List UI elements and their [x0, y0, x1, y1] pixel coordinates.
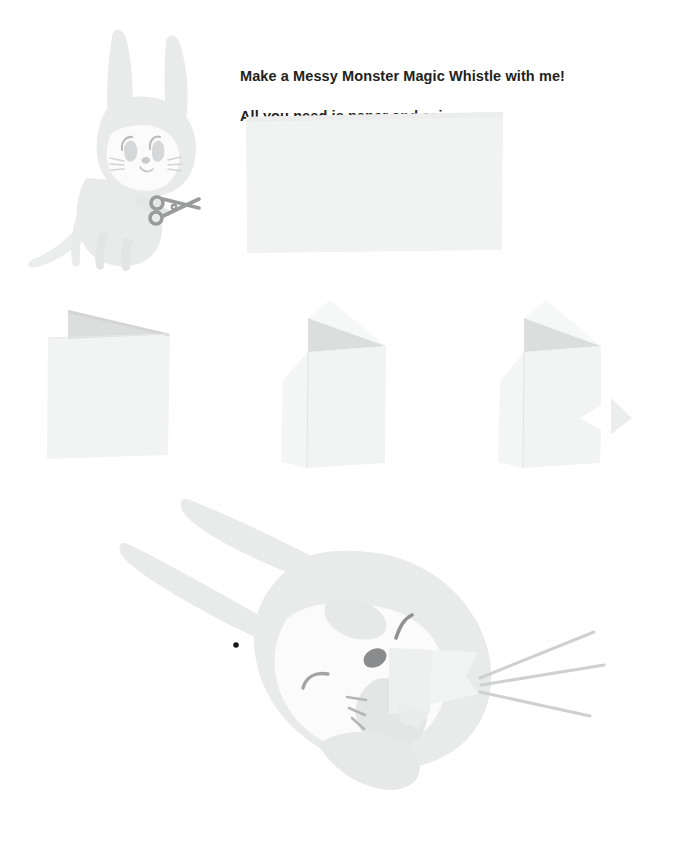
illustration-layer — [0, 0, 693, 853]
scissors-pivot — [172, 205, 176, 209]
cat-with-scissors-illustration — [28, 30, 199, 271]
cat-eye-left — [124, 141, 137, 162]
step3-body — [523, 346, 601, 468]
blowing-cat-eye-dot — [233, 642, 239, 648]
fold-step-2 — [281, 300, 386, 468]
step2-left-flap — [281, 352, 308, 468]
step1-body — [47, 334, 170, 459]
step2-body — [307, 346, 386, 468]
sound-line-middle — [481, 665, 604, 685]
step3-left-flap — [498, 352, 524, 468]
paper-sheet — [246, 112, 503, 253]
whistle-sound-lines — [480, 632, 604, 716]
fold-step-3 — [498, 300, 632, 468]
step3-cut-triangle — [611, 398, 632, 434]
cat-blowing-whistle-illustration — [119, 499, 604, 790]
sound-line-top — [480, 632, 594, 678]
cat-eye-right — [152, 141, 164, 162]
craft-instruction-page: Make a Messy Monster Magic Whistle with … — [0, 0, 693, 853]
fold-step-1 — [47, 310, 170, 459]
sound-line-bottom — [480, 692, 590, 716]
